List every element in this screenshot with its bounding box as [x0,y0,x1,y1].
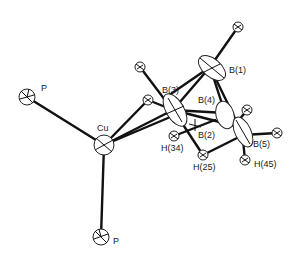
atom-h25 [198,150,208,160]
atom-h-top [233,22,243,32]
atom-cu [94,135,114,155]
label-p-bottom: P [113,236,119,246]
label-h25: H(25) [193,162,216,172]
atom-p-left [19,89,35,105]
atom-h-b3-left [143,95,153,105]
label-h45: H(45) [254,159,277,169]
molecular-structure-diagram: P Cu P B(1) B(3) B(4) B(2) B(5) H(34) H(… [0,0,297,266]
atom-h-b4 [242,105,252,115]
atom-p-bottom [93,229,109,245]
bond-p-cu [27,97,104,145]
atom-h-b3-top [135,62,145,72]
atom-h34 [169,131,179,141]
atom-h-b5 [272,128,282,138]
label-b5: B(5) [253,139,270,149]
label-b3: B(3) [162,85,179,95]
label-b1: B(1) [229,65,246,75]
atom-h45 [240,155,250,165]
label-h34: H(34) [161,143,184,153]
label-cu: Cu [97,123,109,133]
label-p-left: P [41,83,47,93]
bond-b3-h [140,67,165,100]
label-b4: B(4) [198,95,215,105]
bond-cu-p [101,145,104,237]
label-b2: B(2) [198,130,215,140]
